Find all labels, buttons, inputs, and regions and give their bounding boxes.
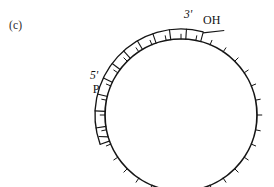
base-pair-rung — [137, 41, 142, 50]
hydroxyl-label: OH — [203, 13, 221, 27]
circular-nucleic-acid-diagram: 3' OH 5' P — [0, 0, 274, 187]
base-pair-rung — [96, 126, 107, 128]
figure-container: (c) 3' OH 5' P — [0, 0, 274, 187]
base-pair-rung — [153, 33, 157, 43]
three-prime-label: 3' — [183, 8, 193, 20]
five-prime-label: 5' — [90, 69, 99, 81]
base-pair-rung — [95, 111, 106, 112]
base-pair-rung — [186, 29, 187, 40]
tick-mark-group — [100, 34, 262, 187]
base-pair-rung — [123, 51, 130, 59]
phosphate-label: P — [93, 82, 100, 96]
backbone-circle — [105, 39, 257, 187]
base-pair-rung — [112, 63, 121, 69]
base-pair-rung — [100, 141, 110, 145]
three-prime-leader-line — [203, 30, 224, 32]
base-pair-rung — [169, 29, 170, 40]
base-pair-rung — [201, 32, 204, 42]
base-pair-rung — [103, 78, 113, 83]
